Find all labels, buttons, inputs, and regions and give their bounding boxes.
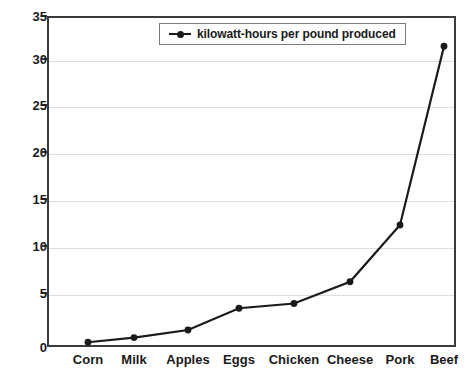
- series-line-kilowatt-hours: [88, 46, 444, 342]
- data-point-cheese: [347, 278, 354, 285]
- series-layer: [0, 0, 470, 368]
- data-point-beef: [441, 43, 448, 50]
- legend-label: kilowatt-hours per pound produced: [197, 27, 396, 41]
- data-point-corn: [85, 339, 92, 346]
- chart-container: 35 30 25 20 15 10 5 0 Corn Milk Apples E…: [0, 0, 470, 368]
- data-point-pork: [397, 222, 404, 229]
- legend: kilowatt-hours per pound produced: [159, 23, 406, 45]
- data-point-chicken: [291, 300, 298, 307]
- data-point-eggs: [236, 305, 243, 312]
- series-markers: [85, 43, 448, 346]
- legend-marker-icon: [169, 29, 191, 39]
- data-point-apples: [185, 327, 192, 334]
- data-point-milk: [131, 334, 138, 341]
